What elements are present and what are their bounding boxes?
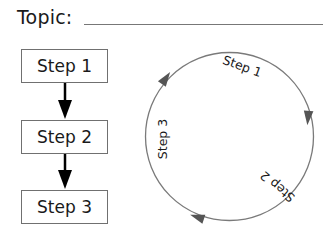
down-arrow-icon <box>58 154 72 189</box>
cycle-step-2-label: Step 2 <box>257 168 298 205</box>
cycle-step-1-label: Step 1 <box>221 52 264 80</box>
cycle-arrow-bottom-icon <box>189 210 206 224</box>
cycle-arrow-left-icon <box>158 69 174 86</box>
down-arrow-icon <box>58 83 72 119</box>
diagram-canvas: Step 1 Step 2 Step 3 <box>0 0 332 246</box>
cycle-step-3-label: Step 3 <box>155 119 170 159</box>
